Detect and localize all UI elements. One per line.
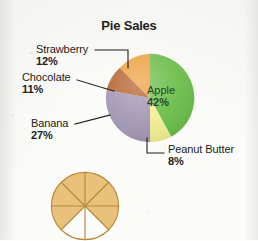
slice-label-apple-name: Apple — [147, 84, 175, 96]
slice-label-peanut-butter-name: Peanut Butter — [168, 143, 234, 155]
slice-label-strawberry-name: Strawberry — [36, 43, 88, 55]
slice-label-chocolate-value: 11% — [22, 83, 71, 95]
chart-title: Pie Sales — [0, 18, 258, 33]
slice-label-banana-value: 27% — [31, 129, 68, 141]
slice-label-peanut-butter-value: 8% — [168, 155, 234, 167]
slice-label-chocolate: Chocolate 11% — [22, 71, 71, 96]
slice-label-peanut-butter: Peanut Butter 8% — [168, 143, 234, 168]
slice-label-strawberry: Strawberry 12% — [36, 43, 88, 68]
sliced-pie-illustration — [50, 171, 120, 241]
slice-label-banana: Banana 27% — [31, 117, 68, 142]
slice-label-apple-value: 42% — [147, 96, 175, 108]
slice-label-apple: Apple 42% — [147, 84, 175, 109]
slice-label-chocolate-name: Chocolate — [22, 71, 71, 83]
slice-label-strawberry-value: 12% — [36, 55, 88, 67]
slice-label-banana-name: Banana — [31, 117, 68, 129]
